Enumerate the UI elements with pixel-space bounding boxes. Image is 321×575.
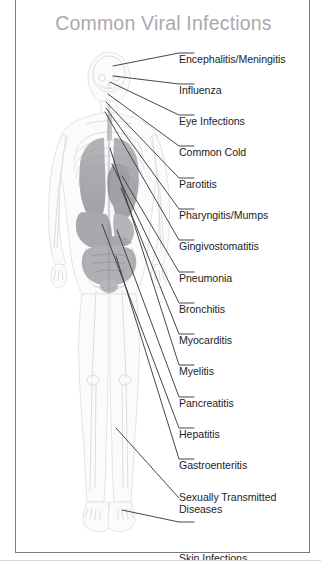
label-pancreatitis: Pancreatitis <box>179 397 234 409</box>
right-foot-outline <box>108 502 135 532</box>
label-sexually-transmitted-diseases: Sexually Transmitted Diseases <box>179 491 276 516</box>
label-pneumonia: Pneumonia <box>179 272 232 284</box>
head-outline <box>88 52 130 104</box>
label-gingivostomatitis: Gingivostomatitis <box>179 240 259 252</box>
label-parotitis: Parotitis <box>179 178 217 190</box>
label-bronchitis: Bronchitis <box>179 303 225 315</box>
left-leg-outline <box>79 294 108 502</box>
label-myelitis: Myelitis <box>179 365 214 377</box>
page-bottom-divider <box>0 560 321 575</box>
figure-layer <box>16 0 311 553</box>
label-encephalitis-meningitis: Encephalitis/Meningitis <box>179 53 286 65</box>
bladder <box>100 279 118 293</box>
label-myocarditis: Myocarditis <box>179 334 232 346</box>
label-hepatitis: Hepatitis <box>179 428 220 440</box>
label-gastroenteritis: Gastroenteritis <box>179 459 247 471</box>
left-hand-outline <box>51 264 67 288</box>
label-common-cold: Common Cold <box>179 146 246 158</box>
page-root: Common Viral Infections <box>0 0 321 575</box>
label-eye-infections: Eye Infections <box>179 115 245 127</box>
left-foot-outline <box>83 502 110 532</box>
trachea <box>107 114 112 140</box>
label-pharyngitis-mumps: Pharyngitis/Mumps <box>179 209 268 221</box>
label-influenza: Influenza <box>179 84 222 96</box>
infographic-card: Common Viral Infections <box>15 0 310 553</box>
right-leg-outline <box>110 294 139 502</box>
